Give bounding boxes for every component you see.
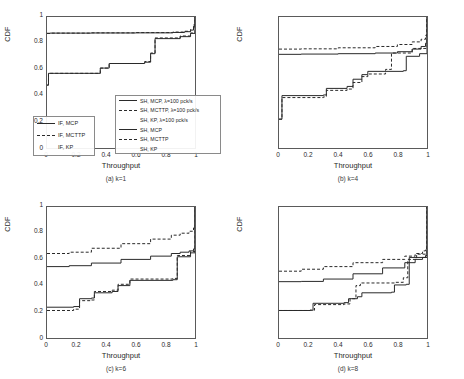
y-tick: 0: [3, 335, 43, 342]
line-sample-dashed-icon: [118, 135, 138, 143]
x-tick: 0: [266, 151, 290, 158]
x-axis-label: Throughput: [278, 351, 428, 360]
series-line: [47, 17, 195, 85]
legend-item: SH, MCP, λ=100 pck/s: [116, 96, 220, 106]
x-tick: 1: [416, 341, 440, 348]
legend-label: SH, MCTTP, λ=100 pck/s: [140, 107, 199, 113]
legend-label: IF, MCP: [58, 120, 78, 126]
legend-label: IF, MCTTP: [58, 132, 85, 138]
plot-area-d: [278, 206, 428, 339]
legend-item: IF, KP: [34, 141, 94, 153]
plot-lines-d: [279, 207, 427, 338]
x-axis-label: Throughput: [46, 351, 196, 360]
line-sample-blank-icon: [118, 116, 138, 124]
series-line: [47, 207, 195, 267]
subplot-caption-c: (c) k=6: [0, 365, 232, 372]
legend-item: SH, MCTTP: [116, 134, 220, 144]
y-tick: 0.8: [3, 38, 43, 45]
x-tick: 0.2: [296, 151, 320, 158]
y-tick: 0.2: [3, 118, 43, 125]
series-line: [279, 207, 427, 271]
legend-label: SH, MCP, λ=100 pck/s: [140, 98, 193, 104]
y-tick: 0.8: [3, 228, 43, 235]
y-tick: 0.2: [3, 308, 43, 315]
legend-item: SH, KP: [116, 144, 220, 154]
y-tick: 0.6: [3, 255, 43, 262]
x-tick: 0.4: [326, 341, 350, 348]
plot-area-b: [278, 16, 428, 149]
x-tick: 0.6: [356, 341, 380, 348]
x-tick: 0.6: [124, 341, 148, 348]
line-sample-dashed-icon: [118, 106, 138, 114]
legend-label: SH, MCTTP: [140, 136, 168, 142]
panel-b: 1 0.8 0.6 0.4 0.2 0 CDF 0 0.2 0.4 0.6 0.…: [232, 0, 464, 189]
y-tick: 0.4: [3, 91, 43, 98]
plot-area-c: [46, 206, 196, 339]
x-tick: 1: [184, 341, 208, 348]
x-tick: 0: [266, 341, 290, 348]
x-tick: 0.2: [64, 341, 88, 348]
subplot-caption-a: (a) k=1: [0, 175, 232, 182]
legend-label: SH, MCP: [140, 127, 162, 133]
line-sample-dashed-icon: [36, 131, 56, 139]
legend-label: IF, KP: [58, 144, 73, 150]
line-sample-solid-icon: [118, 126, 138, 134]
series-line: [47, 17, 195, 85]
x-axis-label: Throughput: [46, 161, 196, 170]
legend-label: SH, KP, λ=100 pck/s: [140, 117, 188, 123]
series-line: [47, 17, 195, 33]
line-sample-blank-icon: [118, 145, 138, 153]
x-tick: 0.8: [386, 341, 410, 348]
series-line: [47, 17, 195, 33]
x-tick: 0.6: [356, 151, 380, 158]
series-line: [279, 17, 427, 49]
legend-sh: SH, MCP, λ=100 pck/s SH, MCTTP, λ=100 pc…: [115, 95, 221, 154]
y-axis-label: CDF: [236, 4, 243, 64]
series-line: [279, 17, 427, 119]
legend-item: IF, MCTTP: [34, 129, 94, 141]
x-axis-label: Throughput: [278, 161, 428, 170]
x-tick: 0.8: [154, 341, 178, 348]
x-tick: 1: [416, 151, 440, 158]
plot-lines-b: [279, 17, 427, 148]
series-line: [47, 207, 195, 310]
x-tick: 0.2: [296, 341, 320, 348]
subplot-caption-d: (d) k=8: [232, 365, 464, 372]
y-tick: 0: [3, 145, 43, 152]
subplot-caption-b: (b) k=4: [232, 175, 464, 182]
figure-cdf-throughput: 1 0.8 0.6 0.4 0.2 0 CDF 0 0.2 0.4 0.6 0.…: [0, 0, 464, 379]
y-tick: 1: [3, 202, 43, 209]
legend-label: SH, KP: [140, 146, 157, 152]
series-line: [279, 17, 427, 119]
y-axis-label: CDF: [236, 194, 243, 254]
legend-item: SH, MCTTP, λ=100 pck/s: [116, 106, 220, 116]
series-line: [47, 207, 195, 307]
legend-item: SH, MCP: [116, 125, 220, 135]
y-tick: 1: [3, 12, 43, 19]
series-line: [47, 207, 195, 254]
panel-d: 1 0.8 0.6 0.4 0.2 0 CDF 0 0.2 0.4 0.6 0.…: [232, 190, 464, 379]
plot-lines-c: [47, 207, 195, 338]
y-tick: 0.4: [3, 281, 43, 288]
series-line: [279, 207, 427, 310]
x-tick: 0.4: [94, 341, 118, 348]
x-tick: 0.8: [386, 151, 410, 158]
series-line: [279, 207, 427, 310]
legend-item: SH, KP, λ=100 pck/s: [116, 115, 220, 125]
x-tick: 0.4: [326, 151, 350, 158]
y-tick: 0.6: [3, 65, 43, 72]
legend-item: IF, MCP: [34, 117, 94, 129]
line-sample-solid-icon: [118, 97, 138, 105]
x-tick: 0: [34, 341, 58, 348]
